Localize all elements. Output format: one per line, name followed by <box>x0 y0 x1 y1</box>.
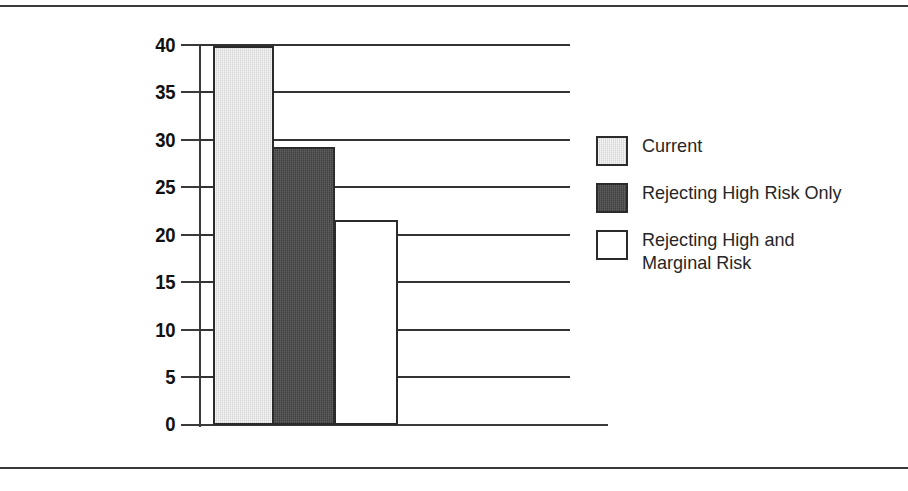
legend-item-rejecting-high-risk-only[interactable]: Rejecting High Risk Only <box>596 181 896 213</box>
legend-label-rejecting-high-risk-only: Rejecting High Risk Only <box>642 181 842 204</box>
y-tick-mark-5 <box>181 376 200 378</box>
legend-item-rejecting-high-and-marginal-risk[interactable]: Rejecting High and Marginal Risk <box>596 228 896 274</box>
y-tick-label-40: 40 <box>135 33 175 57</box>
y-tick-label-30: 30 <box>135 128 175 152</box>
bar-current[interactable] <box>213 46 274 425</box>
legend-swatch-rejecting-high-and-marginal-risk <box>596 230 628 260</box>
y-tick-mark-30 <box>181 139 200 141</box>
legend-item-current[interactable]: Current <box>596 134 896 166</box>
bar-chart-figure: 40 35 30 25 20 15 10 5 0 Current <box>0 0 908 491</box>
y-tick-mark-15 <box>181 281 200 283</box>
y-axis-tick-labels: 40 35 30 25 20 15 10 5 0 <box>125 0 175 491</box>
legend-swatch-rejecting-high-risk-only <box>596 183 628 213</box>
y-tick-label-15: 15 <box>135 270 175 294</box>
legend-swatch-current <box>596 136 628 166</box>
y-tick-label-10: 10 <box>135 318 175 342</box>
legend: Current Rejecting High Risk Only Rejecti… <box>596 134 896 289</box>
bar-rejecting-high-and-marginal-risk[interactable] <box>334 220 398 425</box>
plot-area <box>200 44 570 425</box>
y-tick-label-5: 5 <box>135 365 175 389</box>
y-tick-mark-20 <box>181 234 200 236</box>
y-tick-label-0: 0 <box>135 412 175 436</box>
y-tick-mark-10 <box>181 329 200 331</box>
legend-label-rejecting-high-and-marginal-risk: Rejecting High and Marginal Risk <box>642 228 795 274</box>
bar-rejecting-high-risk-only[interactable] <box>272 147 335 425</box>
legend-label-current: Current <box>642 134 702 157</box>
y-tick-label-20: 20 <box>135 223 175 247</box>
y-tick-mark-25 <box>181 186 200 188</box>
y-tick-mark-40 <box>181 44 200 46</box>
y-tick-label-35: 35 <box>135 80 175 104</box>
y-tick-mark-35 <box>181 91 200 93</box>
y-tick-label-25: 25 <box>135 175 175 199</box>
